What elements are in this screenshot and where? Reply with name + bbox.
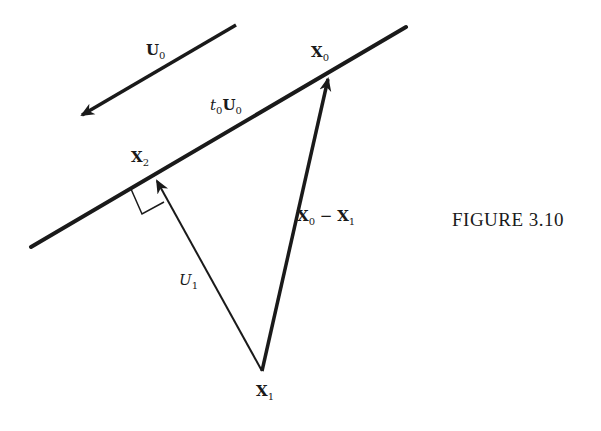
label-x2-main: X xyxy=(131,148,143,166)
vector-x0-minus-x1 xyxy=(262,79,328,371)
label-diff-b: X xyxy=(337,207,349,225)
label-x0-sub: 0 xyxy=(323,52,329,63)
label-u0-sub: 0 xyxy=(159,50,165,61)
label-t0u0: t0U0 xyxy=(210,98,242,113)
label-u1-sub: 1 xyxy=(192,280,198,291)
label-t0u0-main: U xyxy=(222,96,235,114)
label-u1: U1 xyxy=(179,273,198,288)
label-x0-main: X xyxy=(311,43,323,61)
label-x2: X2 xyxy=(131,150,149,165)
label-t0u0-sub: 0 xyxy=(236,105,242,116)
label-x1: X1 xyxy=(256,384,274,399)
vector-u1 xyxy=(157,181,262,371)
label-diff-a-sub: 0 xyxy=(309,216,315,227)
label-u0-main: U xyxy=(146,41,159,59)
label-u1-main: U xyxy=(179,271,192,289)
label-diff-a: X xyxy=(297,207,309,225)
label-x1-main: X xyxy=(256,382,268,400)
label-diff-op: − xyxy=(320,207,333,225)
figure-caption: FIGURE 3.10 xyxy=(452,210,564,229)
label-t0u0-prefix-sub: 0 xyxy=(216,105,222,116)
label-u0: U0 xyxy=(146,43,165,58)
label-x0-minus-x1: X0 − X1 xyxy=(297,209,355,224)
label-x1-sub: 1 xyxy=(268,391,274,402)
label-x2-sub: 2 xyxy=(143,157,149,168)
label-x0: X0 xyxy=(311,45,329,60)
right-angle-marker xyxy=(131,189,164,214)
label-diff-b-sub: 1 xyxy=(349,216,355,227)
